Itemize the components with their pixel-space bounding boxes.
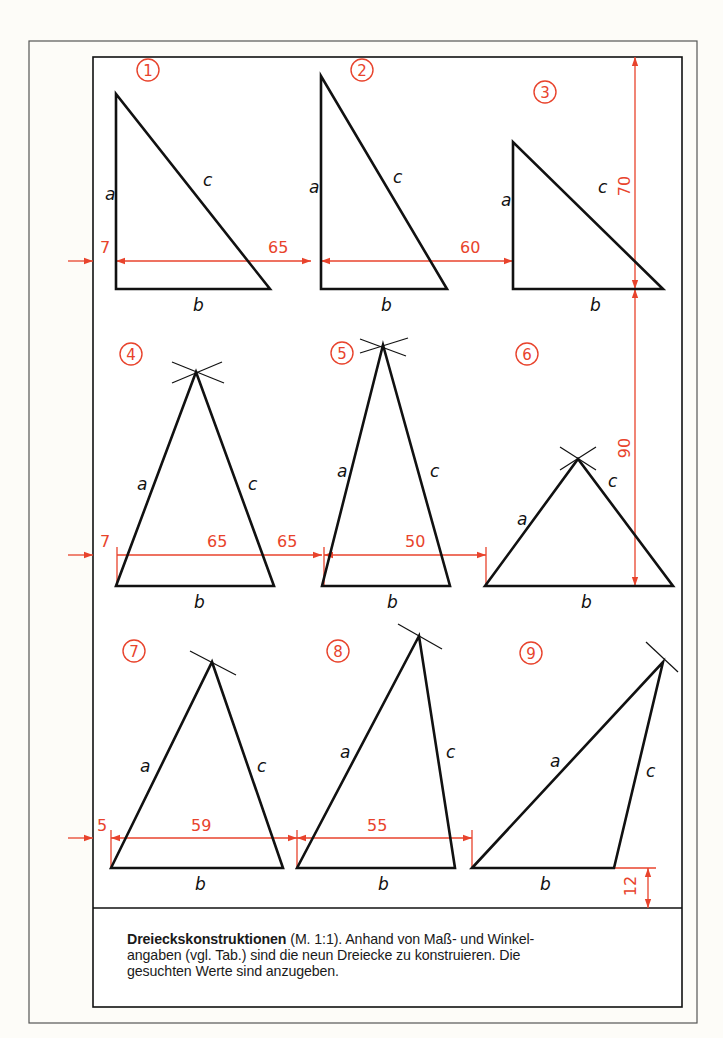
- side-label-c: c: [393, 167, 403, 187]
- dimension-value-vertical: 90: [615, 438, 634, 458]
- triangle-number: 7: [129, 643, 139, 661]
- triangle-number: 2: [357, 62, 367, 80]
- side-label-b: b: [387, 592, 398, 612]
- triangle-number: 6: [522, 346, 532, 364]
- side-label-a: a: [337, 461, 347, 481]
- dimension-value-row2: 65: [207, 532, 227, 551]
- side-label-b: b: [193, 295, 204, 315]
- side-label-c: c: [257, 756, 267, 776]
- caption-line3: gesuchten Werte sind anzugeben.: [127, 963, 339, 979]
- side-label-c: c: [430, 461, 440, 481]
- side-label-a: a: [550, 751, 560, 771]
- triangle-number: 3: [540, 84, 550, 102]
- side-label-b: b: [194, 592, 205, 612]
- caption: Dreieckskonstruktionen (M. 1:1). Anhand …: [127, 931, 672, 979]
- side-label-b: b: [581, 592, 592, 612]
- dimension-value-row3: 55: [367, 816, 387, 835]
- triangle-construction-drawing: 76560765655055955709012 1abc2abc3abc4abc…: [0, 0, 723, 1038]
- inner-frame: [93, 57, 682, 1007]
- triangle-number: 4: [126, 346, 136, 364]
- side-label-a: a: [501, 190, 511, 210]
- dimension-value-row3: 5: [97, 816, 107, 835]
- dimension-value-row2: 50: [405, 532, 425, 551]
- caption-line2: angaben (vgl. Tab.) sind die neun Dreiec…: [127, 947, 520, 963]
- side-label-c: c: [248, 474, 258, 494]
- side-label-a: a: [517, 509, 527, 529]
- side-label-a: a: [137, 474, 147, 494]
- side-label-c: c: [446, 742, 456, 762]
- side-label-a: a: [105, 184, 115, 204]
- side-label-b: b: [381, 295, 392, 315]
- triangle-number: 9: [526, 645, 536, 663]
- dimension-value-vertical: 70: [615, 176, 634, 196]
- triangle-number: 5: [337, 345, 347, 363]
- side-label-a: a: [340, 742, 350, 762]
- side-label-b: b: [590, 295, 601, 315]
- dimension-value-row1: 60: [460, 238, 480, 257]
- triangle-number: 1: [143, 62, 153, 80]
- side-label-b: b: [540, 874, 551, 894]
- dimension-value-row1: 7: [100, 238, 110, 257]
- dimension-value-row2: 65: [277, 532, 297, 551]
- triangle-number: 8: [333, 643, 343, 661]
- caption-title: Dreieckskonstruktionen: [127, 931, 286, 947]
- dimension-value-row3: 59: [191, 816, 211, 835]
- dimension-value-row1: 65: [268, 238, 288, 257]
- side-label-a: a: [140, 756, 150, 776]
- side-label-c: c: [203, 170, 213, 190]
- side-label-c: c: [608, 471, 618, 491]
- frames: [29, 41, 697, 1023]
- side-label-a: a: [309, 177, 319, 197]
- side-label-b: b: [378, 874, 389, 894]
- dimension-value-row2: 7: [100, 532, 110, 551]
- side-label-b: b: [195, 874, 206, 894]
- worksheet-page: 76560765655055955709012 1abc2abc3abc4abc…: [0, 0, 723, 1038]
- side-label-c: c: [646, 761, 656, 781]
- side-label-c: c: [598, 177, 608, 197]
- dimension-value-vertical: 12: [621, 876, 640, 896]
- caption-line1: (M. 1:1). Anhand von Maß- und Winkel-: [286, 931, 534, 947]
